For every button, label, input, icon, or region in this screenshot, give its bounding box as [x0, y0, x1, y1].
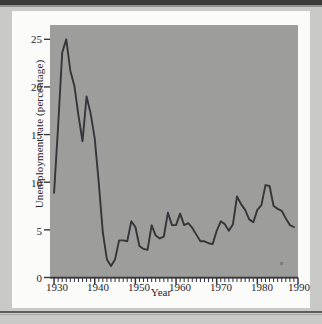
y-axis-ticks	[44, 39, 50, 277]
x-axis-title: Year	[12, 286, 310, 298]
page-background: Unemployment rate (percentage) 25 20 15 …	[0, 0, 322, 324]
page-bottom-rule-shadow	[0, 314, 322, 315]
unemployment-line-chart: Unemployment rate (percentage) 25 20 15 …	[12, 11, 310, 308]
plot-svg	[12, 11, 310, 308]
plot-background	[50, 25, 298, 279]
scan-top-edge-shadow	[0, 5, 322, 7]
page-bottom-rule	[0, 311, 322, 313]
figure-card: Unemployment rate (percentage) 25 20 15 …	[12, 11, 310, 308]
scan-artifact-mark	[280, 262, 283, 265]
